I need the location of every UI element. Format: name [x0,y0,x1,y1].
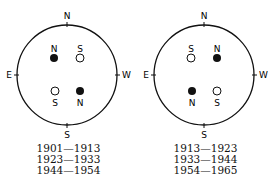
spot-label: S [188,44,194,54]
compass-north-label: N [201,11,208,21]
compass-east-label: E [143,70,149,80]
year-range: 1954—1965 [137,165,274,176]
open-spot-icon [51,87,59,95]
solar-disk-right: N E W S S N N S [137,0,274,140]
spot-label: N [214,44,221,54]
filled-spot-icon [76,87,84,95]
year-ranges-right: 1913—1923 1933—1944 1954—1965 [137,143,274,176]
solar-disk-left: N E W S N S S N [0,0,137,140]
compass-east-label: E [6,70,12,80]
filled-spot-icon [213,54,221,62]
filled-spot-icon [50,54,58,62]
compass-south-label: S [201,130,207,140]
filled-spot-icon [188,87,196,95]
spot-label: N [189,98,196,108]
sunspot-polarity-diagram-left: N E W S N S S N 1901—1913 1923—1933 1944… [0,0,137,180]
spot-label: S [214,98,220,108]
spot-label: S [52,98,58,108]
spot-label: N [77,98,84,108]
sunspot-polarity-diagram-right: N E W S S N N S 1913—1923 1933—1944 1954… [137,0,274,180]
spot-label: S [77,44,83,54]
open-spot-icon [213,87,221,95]
compass-north-label: N [64,11,71,21]
compass-west-label: W [259,70,268,80]
open-spot-icon [187,54,195,62]
spot-label: N [51,44,58,54]
open-spot-icon [76,54,84,62]
year-range: 1944—1954 [0,165,137,176]
compass-south-label: S [64,130,70,140]
compass-west-label: W [122,70,131,80]
year-ranges-left: 1901—1913 1923—1933 1944—1954 [0,143,137,176]
